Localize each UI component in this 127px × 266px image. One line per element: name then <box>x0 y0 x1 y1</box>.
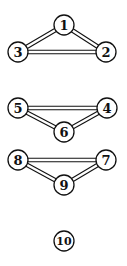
edge-5-4 <box>18 106 107 110</box>
node-3: 3 <box>8 42 28 62</box>
graph-diagram: 12345678910 <box>0 0 127 266</box>
node-8: 8 <box>8 150 28 170</box>
node-label: 2 <box>101 45 110 60</box>
node-10: 10 <box>54 231 74 251</box>
node-label: 6 <box>59 125 68 140</box>
node-label: 8 <box>13 153 22 168</box>
node-label: 3 <box>13 45 22 60</box>
node-9: 9 <box>54 175 74 195</box>
node-label: 7 <box>101 153 110 168</box>
node-label: 4 <box>102 101 111 116</box>
node-1: 1 <box>54 15 74 35</box>
node-2: 2 <box>96 42 116 62</box>
edge-8-7 <box>18 158 106 162</box>
node-5: 5 <box>8 98 28 118</box>
node-label: 5 <box>13 101 22 116</box>
edge-3-2 <box>18 50 106 54</box>
node-7: 7 <box>96 150 116 170</box>
node-label: 1 <box>59 18 68 33</box>
edges-layer <box>17 23 108 186</box>
node-4: 4 <box>97 98 117 118</box>
node-label: 10 <box>56 235 72 248</box>
node-label: 9 <box>59 178 68 193</box>
node-6: 6 <box>54 122 74 142</box>
